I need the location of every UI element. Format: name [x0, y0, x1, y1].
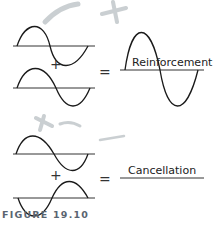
- reinforcement-result-wave: [120, 33, 204, 107]
- cancellation-wave-a: [13, 136, 95, 171]
- figure-canvas: [0, 0, 215, 231]
- equals-operator-2: =: [99, 171, 111, 187]
- equals-operator-1: =: [99, 64, 111, 80]
- figure-caption: FIGURE 19.10: [2, 209, 89, 220]
- reinforcement-wave-b: [13, 69, 95, 107]
- plus-operator-2: +: [50, 167, 62, 183]
- cancellation-label: Cancellation: [128, 164, 196, 177]
- reinforcement-label: Reinforcement: [132, 56, 212, 69]
- plus-operator-1: +: [50, 56, 62, 72]
